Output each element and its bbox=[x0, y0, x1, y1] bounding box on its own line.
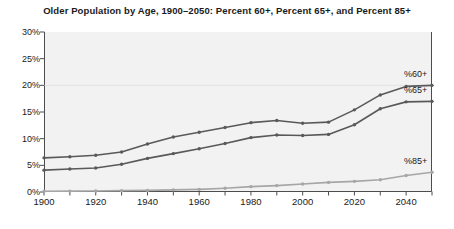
data-point bbox=[379, 178, 382, 181]
data-point bbox=[430, 100, 433, 103]
plot-svg bbox=[44, 32, 432, 198]
chart-container: Older Population by Age, 1900–2050: Perc… bbox=[0, 0, 454, 229]
data-point bbox=[249, 185, 252, 188]
data-point bbox=[198, 131, 201, 134]
x-tick-label: 1900 bbox=[33, 196, 54, 207]
data-point bbox=[404, 100, 407, 103]
data-point bbox=[146, 142, 149, 145]
data-point bbox=[198, 147, 201, 150]
plot-area bbox=[44, 32, 432, 192]
y-axis-tick-labels: 0%5%10%15%20%25%30% bbox=[0, 32, 40, 192]
data-point bbox=[146, 157, 149, 160]
data-point bbox=[120, 150, 123, 153]
series-line-85 bbox=[44, 172, 432, 191]
data-point bbox=[94, 166, 97, 169]
series-line-65 bbox=[44, 101, 432, 170]
y-tick-label: 10% bbox=[6, 134, 40, 144]
data-point bbox=[301, 182, 304, 185]
data-point bbox=[353, 108, 356, 111]
data-point bbox=[379, 93, 382, 96]
x-tick-label: 1980 bbox=[240, 196, 261, 207]
data-point bbox=[430, 84, 433, 87]
data-point bbox=[430, 171, 433, 174]
chart-title: Older Population by Age, 1900–2050: Perc… bbox=[0, 5, 454, 16]
data-point bbox=[68, 167, 71, 170]
data-point bbox=[42, 168, 45, 171]
y-tick-label: 15% bbox=[6, 107, 40, 117]
x-axis-tick-labels: 19001920194019601980200020202040 bbox=[44, 196, 432, 212]
data-point bbox=[327, 133, 330, 136]
data-point bbox=[404, 174, 407, 177]
data-point bbox=[353, 123, 356, 126]
data-point bbox=[68, 189, 71, 192]
data-point bbox=[172, 152, 175, 155]
data-point bbox=[94, 154, 97, 157]
data-point bbox=[198, 188, 201, 191]
data-point bbox=[327, 120, 330, 123]
data-point bbox=[353, 180, 356, 183]
data-point bbox=[275, 133, 278, 136]
data-point bbox=[275, 119, 278, 122]
data-point bbox=[275, 184, 278, 187]
y-tick-label: 20% bbox=[6, 80, 40, 90]
data-point bbox=[223, 142, 226, 145]
data-point bbox=[249, 136, 252, 139]
data-point bbox=[42, 156, 45, 159]
data-point bbox=[223, 187, 226, 190]
data-point bbox=[172, 135, 175, 138]
data-point bbox=[301, 134, 304, 137]
series-label-60: %60+ bbox=[404, 69, 427, 79]
series-label-65: %65+ bbox=[404, 85, 427, 95]
x-tick-label: 2020 bbox=[344, 196, 365, 207]
x-tick-label: 1940 bbox=[137, 196, 158, 207]
data-point bbox=[146, 189, 149, 192]
x-tick-label: 1920 bbox=[85, 196, 106, 207]
series-label-85: %85+ bbox=[404, 156, 427, 166]
data-point bbox=[94, 189, 97, 192]
data-point bbox=[249, 121, 252, 124]
data-point bbox=[301, 122, 304, 125]
data-point bbox=[172, 188, 175, 191]
y-tick-label: 25% bbox=[6, 54, 40, 64]
data-point bbox=[379, 107, 382, 110]
series-line-60 bbox=[44, 85, 432, 158]
y-tick-label: 5% bbox=[6, 160, 40, 170]
y-tick-label: 30% bbox=[6, 27, 40, 37]
x-tick-label: 1960 bbox=[189, 196, 210, 207]
x-tick-label: 2000 bbox=[292, 196, 313, 207]
data-point bbox=[68, 155, 71, 158]
data-point bbox=[327, 181, 330, 184]
data-point bbox=[223, 126, 226, 129]
data-point bbox=[120, 163, 123, 166]
data-point bbox=[42, 190, 45, 193]
x-tick-label: 2040 bbox=[396, 196, 417, 207]
data-point bbox=[120, 189, 123, 192]
